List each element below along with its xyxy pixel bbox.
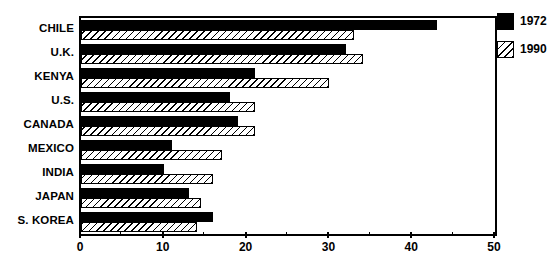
bar-1972-canada xyxy=(81,116,238,126)
legend-label: 1972 xyxy=(520,14,547,28)
x-tick-minor xyxy=(203,232,204,236)
bar-1990-u-s xyxy=(81,102,255,112)
bar-1972-japan xyxy=(81,188,189,198)
x-tick-label: 0 xyxy=(60,240,100,254)
category-label: CANADA xyxy=(0,118,74,130)
x-tick-major xyxy=(162,232,164,238)
x-tick-label: 40 xyxy=(391,240,431,254)
x-tick-major xyxy=(79,232,81,238)
bar-1972-mexico xyxy=(81,140,172,150)
category-label: KENYA xyxy=(0,70,74,82)
x-tick-label: 30 xyxy=(308,240,348,254)
x-axis: 01020304050 xyxy=(79,232,497,268)
bar-1972-u-k xyxy=(81,44,346,54)
bar-1990-kenya xyxy=(81,78,329,88)
bar-1990-u-k xyxy=(81,54,363,64)
legend-item-1990: 1990 xyxy=(497,40,547,58)
x-tick-label: 50 xyxy=(474,240,514,254)
category-label: INDIA xyxy=(0,166,74,178)
bar-1990-s-korea xyxy=(81,222,197,232)
hatched-swatch xyxy=(497,41,514,58)
bar-chart: CHILEU.K.KENYAU.S.CANADAMEXICOINDIAJAPAN… xyxy=(0,0,559,271)
x-tick-major xyxy=(245,232,247,238)
category-label: S. KOREA xyxy=(0,214,74,226)
bar-1990-india xyxy=(81,174,213,184)
plot-area xyxy=(79,16,497,236)
x-tick-minor xyxy=(286,232,287,236)
bar-1990-canada xyxy=(81,126,255,136)
legend-item-1972: 1972 xyxy=(497,12,547,30)
category-label: MEXICO xyxy=(0,142,74,154)
bar-1972-u-s xyxy=(81,92,230,102)
category-label: U.S. xyxy=(0,94,74,106)
x-tick-minor xyxy=(120,232,121,236)
chart-legend: 19721990 xyxy=(497,12,559,64)
bar-1990-japan xyxy=(81,198,201,208)
category-label: CHILE xyxy=(0,22,74,34)
x-tick-minor xyxy=(452,232,453,236)
bar-1990-chile xyxy=(81,30,354,40)
bar-1972-chile xyxy=(81,20,437,30)
category-label: JAPAN xyxy=(0,190,74,202)
x-tick-major xyxy=(327,232,329,238)
x-tick-major xyxy=(493,232,495,238)
x-tick-label: 20 xyxy=(226,240,266,254)
x-tick-label: 10 xyxy=(143,240,183,254)
category-label: U.K. xyxy=(0,46,74,58)
bar-1972-s-korea xyxy=(81,212,213,222)
bars-layer xyxy=(81,18,495,234)
bar-1990-mexico xyxy=(81,150,222,160)
x-tick-minor xyxy=(369,232,370,236)
solid-black-swatch xyxy=(497,13,514,30)
category-axis: CHILEU.K.KENYAU.S.CANADAMEXICOINDIAJAPAN… xyxy=(0,16,74,232)
bar-1972-kenya xyxy=(81,68,255,78)
x-tick-major xyxy=(410,232,412,238)
bar-1972-india xyxy=(81,164,164,174)
legend-label: 1990 xyxy=(520,42,547,56)
